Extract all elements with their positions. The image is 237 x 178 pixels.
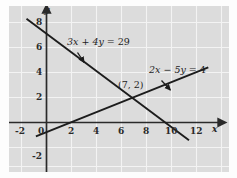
- xtick-label-2: 2: [68, 127, 74, 136]
- intersection-point-label: (7, 2): [118, 80, 144, 90]
- ytick-label-4: 4: [36, 68, 42, 77]
- xtick-label-6: 6: [118, 127, 124, 136]
- xtick-label-4: 4: [93, 127, 99, 136]
- xtick-label-12: 12: [190, 127, 203, 136]
- xtick-label-8: 8: [143, 127, 149, 136]
- xtick-label-10: 10: [165, 127, 178, 136]
- xtick-label--2: -2: [15, 127, 25, 136]
- xtick-label-0: 0: [38, 127, 44, 136]
- coordinate-plane: -2 0 2 4 6 8 10 12 8 6 4 2 -2 y x 3x + 4…: [9, 6, 229, 172]
- ytick-label-6: 6: [36, 43, 42, 52]
- ytick-label-8: 8: [36, 18, 42, 27]
- equation-label-one: 3x + 4y = 29: [67, 37, 130, 47]
- ytick-label-2: 2: [36, 93, 42, 102]
- graph-screenshot: -2 0 2 4 6 8 10 12 8 6 4 2 -2 y x 3x + 4…: [0, 0, 237, 178]
- x-axis-label: x: [212, 125, 217, 134]
- equation-label-two: 2x − 5y = 4: [149, 65, 206, 75]
- y-axis-label: y: [44, 6, 49, 15]
- ytick-label--2: -2: [32, 152, 42, 161]
